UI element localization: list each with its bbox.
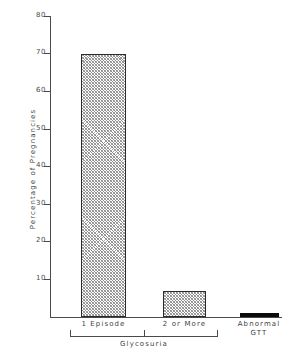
x-label-abnormal-gtt: Abnormal GTT (228, 320, 289, 338)
bar-chart: Percentage of Pregnancies 80 70 60 50 40… (0, 0, 289, 356)
glycosuria-bracket-left-end (70, 330, 71, 337)
y-tick-label-60: 60 (16, 87, 46, 94)
y-tick-label-50: 50 (16, 125, 46, 132)
glycosuria-group-label: Glycosuria (70, 340, 218, 348)
y-axis-line (50, 16, 51, 318)
bar-2-or-more (163, 291, 206, 317)
x-axis-line (50, 317, 282, 318)
glycosuria-bracket-right-end (217, 330, 218, 337)
bar-1-episode (81, 54, 126, 317)
y-tick-label-20: 20 (16, 237, 46, 244)
x-label-2-or-more: 2 or More (144, 320, 225, 329)
x-label-1-episode: 1 Episode (63, 320, 144, 329)
y-tick-label-70: 70 (16, 49, 46, 56)
bar-abnormal-gtt (240, 313, 279, 317)
y-tick-label-30: 30 (16, 200, 46, 207)
y-tick-label-40: 40 (16, 162, 46, 169)
glycosuria-bracket-center-divider (144, 330, 145, 337)
x-label-abnormal-gtt-line2: GTT (228, 329, 289, 338)
y-tick-label-10: 10 (16, 275, 46, 282)
y-tick-label-80: 80 (16, 12, 46, 19)
x-label-abnormal-gtt-line1: Abnormal (228, 320, 289, 329)
